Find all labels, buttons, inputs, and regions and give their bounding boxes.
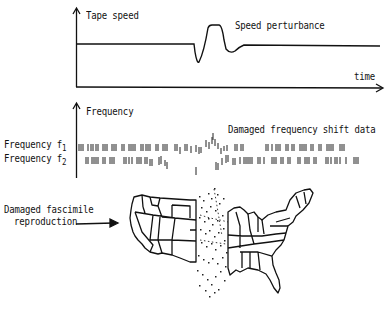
speed-trace [77,25,380,62]
frequency-f2-label: Frequency f2 [4,153,66,165]
frequency-f1-label: Frequency f1 [4,139,66,151]
us-map-east [228,189,313,293]
us-map-damaged-strip [197,188,228,298]
frequency-f2-subscript: 2 [62,157,66,167]
damaged-frequency-annotation: Damaged frequency shift data [228,124,375,136]
pointer-arrow [76,219,118,227]
frequency-f2-text: Frequency f [4,152,62,165]
frequency-f1-text: Frequency f [4,138,62,151]
speed-y-axis [73,8,80,87]
speed-perturbance-annotation: Speed perturbance [235,20,325,32]
us-map-west [130,195,196,262]
frequency-axis-label: Frequency [86,106,133,118]
frequency-f1-subscript: 1 [62,143,66,153]
frequency-y-axis [73,103,80,178]
frequency-f2-ticks [86,155,358,175]
frequency-f1-ticks [79,133,344,154]
damaged-facsimile-label-line2: reproduction [14,216,77,228]
tape-speed-axis-label: Tape speed [86,10,139,22]
time-axis [76,84,383,92]
time-axis-label: time [354,71,375,83]
